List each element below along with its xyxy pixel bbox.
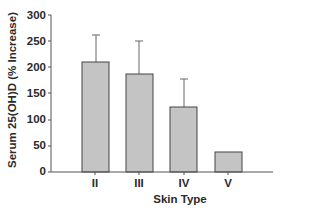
bar-IV xyxy=(170,107,197,172)
bar-V xyxy=(215,152,242,172)
x-tick-label: IV xyxy=(169,177,199,189)
bar-II xyxy=(82,62,109,172)
x-tick-label: II xyxy=(80,177,110,189)
x-axis-label: Skin Type xyxy=(130,193,230,205)
x-tick-label: V xyxy=(213,177,243,189)
x-tick-label: III xyxy=(124,177,154,189)
bar-III xyxy=(126,74,153,172)
